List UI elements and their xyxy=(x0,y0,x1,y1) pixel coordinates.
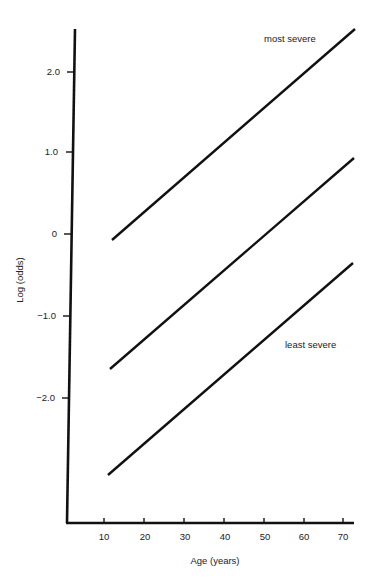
annotation-most-severe: most severe xyxy=(264,33,316,44)
series-line-most-severe xyxy=(112,29,355,240)
x-tick-label: 30 xyxy=(180,531,191,542)
y-tick-label: −2.0 xyxy=(36,392,55,403)
x-tick-label: 50 xyxy=(260,531,271,542)
x-axis-title: Age (years) xyxy=(190,555,239,566)
series-line-intermediate xyxy=(110,158,354,369)
x-tick-labels: 10 20 30 40 50 60 70 xyxy=(99,531,349,542)
y-axis xyxy=(67,29,75,523)
line-chart: 2.0 1.0 0 −1.0 −2.0 10 20 30 40 50 60 70… xyxy=(0,0,374,587)
y-tick-label: −1.0 xyxy=(37,310,56,321)
x-tick-label: 40 xyxy=(220,531,231,542)
x-tick-label: 60 xyxy=(299,531,310,542)
x-tick-label: 70 xyxy=(338,531,349,542)
x-tick-label: 10 xyxy=(99,531,110,542)
x-tick-label: 20 xyxy=(140,531,151,542)
y-tick-label: 0 xyxy=(52,228,57,239)
y-tick-label: 2.0 xyxy=(47,66,60,77)
y-tick-label: 1.0 xyxy=(45,146,58,157)
y-tick-labels: 2.0 1.0 0 −1.0 −2.0 xyxy=(36,66,60,403)
series-line-least-severe xyxy=(108,263,353,475)
annotation-least-severe: least severe xyxy=(285,339,336,350)
y-axis-title: Log (odds) xyxy=(14,257,25,302)
